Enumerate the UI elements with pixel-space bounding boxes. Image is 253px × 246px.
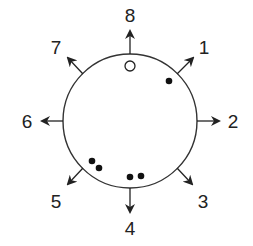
label-8: 8 bbox=[125, 5, 136, 26]
label-6: 6 bbox=[22, 111, 33, 132]
filled-dot-icon bbox=[138, 173, 145, 180]
arrow-1-icon bbox=[177, 58, 193, 74]
arrow-3-icon bbox=[177, 168, 192, 184]
label-2: 2 bbox=[228, 111, 239, 132]
arrow-7-icon bbox=[68, 58, 83, 74]
markers bbox=[89, 61, 173, 180]
label-3: 3 bbox=[198, 191, 209, 212]
label-1: 1 bbox=[199, 37, 210, 58]
label-4: 4 bbox=[125, 218, 136, 239]
filled-dot-icon bbox=[96, 165, 103, 172]
direction-circle-diagram: 8 1 2 3 4 5 6 7 bbox=[0, 0, 253, 246]
arrow-5-icon bbox=[68, 168, 83, 184]
filled-dot-icon bbox=[166, 78, 173, 85]
label-5: 5 bbox=[51, 191, 62, 212]
main-circle bbox=[63, 54, 197, 188]
hollow-dot-icon bbox=[125, 61, 135, 71]
label-7: 7 bbox=[51, 37, 62, 58]
direction-arrows bbox=[42, 31, 219, 212]
filled-dot-icon bbox=[127, 174, 134, 181]
filled-dot-icon bbox=[89, 158, 96, 165]
